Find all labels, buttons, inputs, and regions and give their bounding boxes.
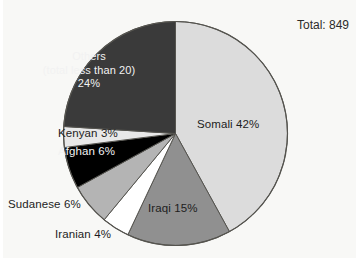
slice-label-others: Others (total less than 20) 24% bbox=[43, 50, 136, 91]
scan-edge-left bbox=[0, 0, 3, 262]
pie-chart-figure: Total: 849 Others (total less than 20) 2… bbox=[0, 0, 359, 262]
slice-label-others-line3: 24% bbox=[43, 77, 136, 91]
pie-chart-svg bbox=[0, 0, 359, 262]
slice-label-iraqi: Iraqi 15% bbox=[148, 202, 197, 214]
slice-label-others-line1: Others bbox=[43, 50, 136, 64]
slice-label-afghan: Afghan 6% bbox=[58, 145, 115, 157]
slice-label-kenyan: Kenyan 3% bbox=[58, 127, 118, 139]
slice-label-somali: Somali 42% bbox=[197, 118, 259, 130]
scan-edge-bottom bbox=[0, 258, 359, 262]
chart-total-label: Total: 849 bbox=[297, 18, 349, 32]
slice-label-iranian: Iranian 4% bbox=[55, 228, 111, 240]
slice-label-sudanese: Sudanese 6% bbox=[8, 198, 81, 210]
slice-label-others-line2: (total less than 20) bbox=[43, 64, 136, 78]
